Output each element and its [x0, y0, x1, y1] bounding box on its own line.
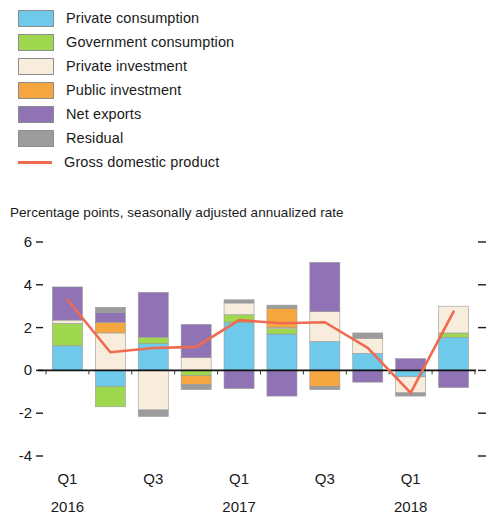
bar-segment — [267, 334, 297, 370]
bar-segment — [396, 359, 426, 371]
legend-color-swatch-net_exports — [18, 106, 54, 123]
legend-item-private_investment: Private investment — [18, 54, 318, 78]
bar-segment — [310, 342, 340, 371]
bar-group — [181, 324, 211, 389]
y-axis-tick-label: 6 — [24, 233, 32, 250]
bar-segment — [310, 370, 340, 386]
bar-segment — [181, 358, 211, 371]
bar-segment — [224, 370, 254, 388]
x-axis-tick-q1-2017: Q12017 — [209, 470, 269, 515]
chart-legend: Private consumptionGovernment consumptio… — [18, 6, 318, 174]
bar-segment — [267, 305, 297, 308]
bar-segment — [138, 337, 168, 343]
bar-segment — [95, 313, 125, 323]
legend-label: Residual — [66, 130, 123, 146]
y-axis-tick-label: 2 — [24, 319, 32, 336]
x-axis-tick-q3-3: Q3 — [295, 470, 355, 487]
legend-color-swatch-government_consumption — [18, 34, 54, 51]
y-axis-tick-label: -4 — [19, 447, 32, 464]
legend-label: Government consumption — [66, 34, 234, 50]
bar-segment — [95, 322, 125, 333]
bar-group — [439, 306, 469, 387]
bar-segment — [181, 376, 211, 385]
legend-color-swatch-public_investment — [18, 82, 54, 99]
legend-label: Public investment — [66, 82, 181, 98]
x-axis-tick-q1-2016: Q12016 — [37, 470, 97, 515]
legend-label: Private investment — [66, 58, 187, 74]
chart-subtitle: Percentage points, seasonally adjusted a… — [10, 205, 344, 220]
bar-segment — [224, 303, 254, 315]
legend-item-residual: Residual — [18, 126, 318, 150]
legend-item-government_consumption: Government consumption — [18, 30, 318, 54]
legend-label: Private consumption — [66, 10, 199, 26]
x-axis-quarter-label: Q3 — [295, 470, 355, 487]
bar-segment — [310, 262, 340, 311]
bar-segment — [310, 386, 340, 389]
legend-item-private_consumption: Private consumption — [18, 6, 318, 30]
x-axis-quarter-label: Q1 — [209, 470, 269, 487]
bar-segment — [52, 287, 82, 320]
bar-segment — [267, 329, 297, 334]
chart-plot-area: -4-20246 — [0, 232, 489, 472]
legend-color-swatch-private_consumption — [18, 10, 54, 27]
bar-segment — [353, 333, 383, 338]
bar-group — [138, 292, 168, 416]
x-axis-labels: Q12016Q3Q12017Q3Q12018 — [0, 470, 489, 517]
bar-segment — [224, 322, 254, 370]
legend-label: Net exports — [66, 106, 141, 122]
legend-label: Gross domestic product — [64, 154, 219, 170]
bar-segment — [138, 410, 168, 416]
x-axis-tick-q1-2018: Q12018 — [381, 470, 441, 515]
bar-segment — [267, 370, 297, 396]
x-axis-year-label: 2018 — [381, 498, 441, 515]
bar-group — [267, 305, 297, 396]
y-axis-tick-label: -2 — [19, 404, 32, 421]
legend-item-net_exports: Net exports — [18, 102, 318, 126]
x-axis-quarter-label: Q1 — [37, 470, 97, 487]
bar-segment — [95, 370, 125, 386]
bar-segment — [353, 353, 383, 370]
stacked-bar-chart: -4-20246 — [0, 232, 489, 472]
x-axis-quarter-label: Q1 — [381, 470, 441, 487]
x-axis-year-label: 2016 — [37, 498, 97, 515]
x-axis-tick-q3-1: Q3 — [123, 470, 183, 487]
x-axis-year-label: 2017 — [209, 498, 269, 515]
bar-segment — [52, 346, 82, 371]
bar-segment — [95, 386, 125, 406]
legend-color-swatch-private_investment — [18, 58, 54, 75]
bar-segment — [52, 323, 82, 345]
bar-segment — [267, 308, 297, 327]
bar-segment — [138, 292, 168, 337]
y-axis-tick-label: 0 — [24, 361, 32, 378]
bar-segment — [138, 370, 168, 410]
bar-segment — [439, 337, 469, 370]
bar-group — [224, 300, 254, 389]
bar-segment — [439, 370, 469, 387]
legend-item-public_investment: Public investment — [18, 78, 318, 102]
y-axis-tick-label: 4 — [24, 276, 32, 293]
bar-segment — [310, 312, 340, 342]
bar-segment — [353, 370, 383, 382]
legend-color-swatch-residual — [18, 130, 54, 147]
legend-line-swatch-gdp — [18, 161, 52, 164]
x-axis-quarter-label: Q3 — [123, 470, 183, 487]
bar-segment — [52, 320, 82, 323]
bar-segment — [224, 300, 254, 303]
bar-segment — [181, 384, 211, 389]
bar-segment — [95, 307, 125, 312]
legend-item-gdp: Gross domestic product — [18, 150, 318, 174]
bar-group — [95, 307, 125, 407]
